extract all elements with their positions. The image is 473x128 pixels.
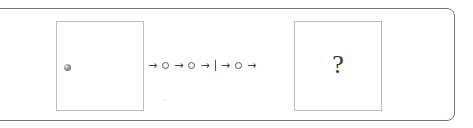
circle-icon bbox=[235, 62, 242, 69]
arrow-icon: → bbox=[200, 60, 209, 71]
arrow-icon: → bbox=[148, 60, 157, 71]
transformation-sequence: → → → → → bbox=[148, 57, 256, 73]
circle-icon bbox=[162, 62, 169, 69]
circle-icon bbox=[188, 62, 195, 69]
speck bbox=[164, 99, 166, 101]
arrow-icon: → bbox=[221, 60, 230, 71]
end-box: ? bbox=[294, 21, 382, 111]
question-mark: ? bbox=[295, 50, 381, 80]
arrow-icon: → bbox=[174, 60, 183, 71]
bar-icon bbox=[215, 60, 216, 71]
arrow-icon: → bbox=[247, 60, 256, 71]
ball-icon bbox=[64, 64, 71, 71]
start-box bbox=[56, 21, 144, 111]
